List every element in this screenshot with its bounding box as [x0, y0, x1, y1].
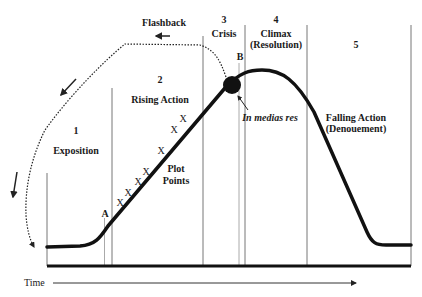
section-4-number: 4 — [274, 14, 279, 25]
section-2-label: Rising Action — [131, 94, 189, 105]
section-1-label: Exposition — [53, 145, 99, 156]
plot-point-marker: X — [170, 124, 178, 135]
plot-point-marker: X — [157, 145, 165, 156]
plot-point-marker: X — [142, 166, 150, 177]
section-1-number: 1 — [74, 125, 79, 136]
section-dividers — [47, 25, 411, 266]
section-3-label: Crisis — [212, 28, 237, 39]
section-4-label: Climax — [260, 28, 291, 39]
section-5-sublabel: (Denouement) — [326, 123, 387, 135]
in-medias-res-label: In medias res — [241, 112, 298, 123]
section-5-number: 5 — [354, 39, 359, 50]
flashback-return-arrow-icon — [61, 79, 76, 95]
plot-point-marker: X — [124, 187, 132, 198]
plot-points-label-line2: Points — [163, 175, 190, 186]
time-axis-label: Time — [24, 277, 45, 288]
section-2-number: 2 — [158, 74, 163, 85]
marker-a-label: A — [101, 208, 109, 219]
plot-points-label-line1: Plot — [167, 163, 185, 174]
section-5-label: Falling Action — [326, 112, 387, 123]
plot-point-markers: X X X X X X X — [116, 113, 187, 208]
plot-structure-diagram: Flashback 1 Exposition 2 Rising Action 3… — [0, 0, 422, 297]
plot-point-marker: X — [134, 176, 142, 187]
flashback-down-arrow-icon — [13, 172, 17, 197]
flashback-label: Flashback — [142, 17, 186, 28]
section-4-sublabel: (Resolution) — [250, 39, 302, 51]
plot-point-marker: X — [179, 113, 187, 124]
plot-curve — [47, 70, 411, 247]
section-3-number: 3 — [222, 14, 227, 25]
marker-b-label: B — [237, 51, 244, 62]
plot-point-marker: X — [116, 197, 124, 208]
in-medias-res-dot — [223, 76, 241, 94]
